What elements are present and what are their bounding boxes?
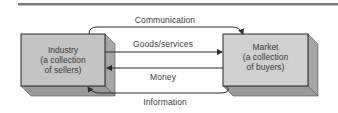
information-label: Information	[143, 97, 187, 107]
money-label: Money	[150, 72, 176, 82]
industry-text: Industry (a collection of sellers)	[21, 45, 105, 75]
goods-services-label: Goods/services	[133, 39, 193, 49]
industry-subtitle-2: of sellers)	[21, 65, 105, 75]
market-subtitle-2: of buyers)	[223, 62, 308, 72]
industry-market-diagram: Communication Goods/services Money Infor…	[0, 0, 338, 113]
market-title: Market	[223, 42, 308, 52]
market-subtitle-1: (a collection	[223, 52, 308, 62]
market-text: Market (a collection of buyers)	[223, 42, 308, 72]
communication-arrow	[89, 27, 243, 34]
industry-title: Industry	[21, 45, 105, 55]
top-rule	[18, 3, 338, 6]
industry-subtitle-1: (a collection	[21, 55, 105, 65]
communication-label: Communication	[135, 15, 195, 25]
